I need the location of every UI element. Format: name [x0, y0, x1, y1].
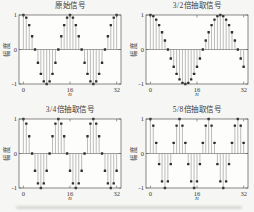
stem-marker [95, 122, 97, 124]
stem-marker [66, 152, 68, 154]
stem-marker [213, 18, 215, 20]
stem-marker [98, 135, 100, 137]
stem-marker [175, 124, 177, 126]
stem-marker [161, 31, 163, 33]
stem-plot: 0163210-1 [0, 0, 127, 101]
stem-marker [75, 24, 77, 26]
stem-marker [43, 182, 45, 184]
stem-marker [155, 18, 157, 20]
stem-marker [80, 48, 82, 50]
stem-marker [210, 24, 212, 26]
stem-marker [170, 57, 172, 59]
stem-marker [234, 39, 236, 41]
stem-marker [115, 170, 117, 172]
stem-marker [164, 39, 166, 41]
stem-marker [167, 180, 169, 182]
stem-marker [66, 16, 68, 18]
stem-marker [228, 163, 230, 165]
stem-marker [107, 182, 109, 184]
stem-marker [184, 142, 186, 144]
stem-marker [158, 163, 160, 165]
stem-marker [31, 35, 33, 37]
stem-marker [152, 124, 154, 126]
stem-marker [193, 73, 195, 75]
stem-marker [63, 135, 65, 137]
stem-marker [80, 170, 82, 172]
stem-marker [199, 163, 201, 165]
stem-marker [83, 62, 85, 64]
stem-marker [187, 163, 189, 165]
stem-marker [72, 16, 74, 18]
stem-marker [95, 80, 97, 82]
figure-canvas: 原始信号 幅度 0163210-1 n 3/2倍抽取信号 幅度 0163210-… [0, 0, 254, 212]
x-axis-label: n [19, 195, 121, 202]
stem-marker [213, 142, 215, 144]
stem-marker [51, 73, 53, 75]
stem-marker [113, 182, 115, 184]
stem-marker [34, 48, 36, 50]
stem-marker [205, 124, 207, 126]
stem-marker [54, 62, 56, 64]
stem-marker [72, 182, 74, 184]
stem-marker [240, 57, 242, 59]
stem-marker [196, 180, 198, 182]
stem-marker [155, 142, 157, 144]
stem-marker [234, 124, 236, 126]
stem-marker [240, 124, 242, 126]
stem-marker [69, 170, 71, 172]
y-tick-label: 1 [141, 11, 144, 18]
stem-marker [101, 152, 103, 154]
x-axis-label: n [146, 91, 248, 98]
subplot-3-2-decimated-signal: 3/2倍抽取信号 幅度 0163210-1 n [127, 0, 254, 101]
stem-marker [89, 122, 91, 124]
stem-marker [89, 80, 91, 82]
stem-marker [242, 66, 244, 68]
stem-marker [63, 24, 65, 26]
stem-marker [231, 31, 233, 33]
y-tick-label: 0 [141, 46, 144, 53]
stem-plot: 0163210-1 [127, 104, 254, 205]
stem-marker [48, 152, 50, 154]
stem-marker [237, 48, 239, 50]
stem-marker [60, 35, 62, 37]
stem-marker [45, 170, 47, 172]
stem-marker [158, 24, 160, 26]
stem-marker [25, 122, 27, 124]
stem-marker [219, 180, 221, 182]
stem-marker [207, 31, 209, 33]
stem-marker [28, 24, 30, 26]
stem-plot: 0163210-1 [127, 0, 254, 101]
y-tick-label: 1 [14, 115, 17, 122]
stem-marker [78, 35, 80, 37]
stem-marker [54, 122, 56, 124]
y-tick-label: -1 [12, 80, 17, 87]
stem-marker [40, 73, 42, 75]
stem-marker [48, 80, 50, 82]
subplot-original-signal: 原始信号 幅度 0163210-1 n [0, 0, 127, 101]
stem-plot: 0163210-1 [0, 104, 127, 205]
y-tick-label: 0 [14, 46, 17, 53]
stem-marker [78, 182, 80, 184]
stem-marker [216, 163, 218, 165]
x-axis-label: n [146, 195, 248, 202]
stem-marker [86, 73, 88, 75]
y-tick-label: -1 [12, 184, 17, 191]
y-tick-label: -1 [139, 184, 144, 191]
stem-marker [172, 142, 174, 144]
stem-marker [98, 73, 100, 75]
stem-marker [161, 180, 163, 182]
stem-marker [28, 135, 30, 137]
stem-marker [25, 16, 27, 18]
stem-marker [43, 80, 45, 82]
stem-marker [31, 152, 33, 154]
stem-marker [199, 57, 201, 59]
stem-marker [83, 152, 85, 154]
stem-marker [181, 124, 183, 126]
stem-marker [175, 73, 177, 75]
y-tick-label: 0 [141, 150, 144, 157]
stem-marker [202, 48, 204, 50]
stem-marker [210, 124, 212, 126]
stem-marker [190, 78, 192, 80]
y-tick-label: 1 [14, 11, 17, 18]
stem-marker [104, 48, 106, 50]
